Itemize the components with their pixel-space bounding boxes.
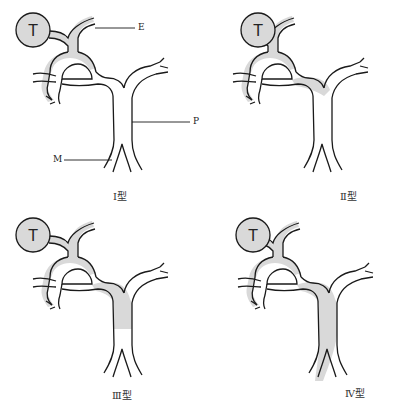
tumor-label: T xyxy=(27,227,38,245)
callout-p: P xyxy=(193,116,199,126)
panel-caption: Ⅱ型 xyxy=(340,188,357,203)
callout-m: M xyxy=(53,154,62,164)
tumor-label: T xyxy=(252,22,263,40)
vessel-diagram: T xyxy=(0,205,200,404)
callout-e: E xyxy=(138,22,145,32)
vessel-diagram: T xyxy=(205,205,405,404)
tumor-label: T xyxy=(247,227,258,245)
panel-type-4: T Ⅳ型 xyxy=(205,205,405,404)
panel-caption: Ⅲ型 xyxy=(112,387,132,402)
panel-type-1: T E P M Ⅰ型 xyxy=(0,0,200,200)
vessel-diagram: T xyxy=(0,0,200,200)
panel-caption: Ⅰ型 xyxy=(113,188,127,203)
panel-caption: Ⅳ型 xyxy=(345,385,365,400)
tumor-label: T xyxy=(27,22,38,40)
panel-type-2: T Ⅱ型 xyxy=(200,0,400,200)
panel-type-3: T Ⅲ型 xyxy=(0,205,200,404)
vessel-diagram: T xyxy=(200,0,400,200)
